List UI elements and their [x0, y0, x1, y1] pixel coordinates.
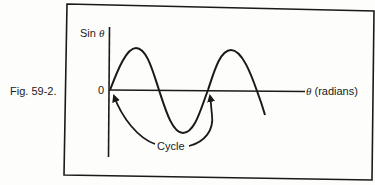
- x-axis-label: θ (radians): [306, 85, 358, 97]
- y-axis: [109, 27, 110, 157]
- sine-wave-diagram: Sin θ 0 θ (radians) Cycle: [0, 0, 375, 185]
- origin-label: 0: [98, 84, 104, 96]
- cycle-annotation: Cycle: [157, 140, 185, 152]
- cycle-arrow-left: [114, 96, 155, 144]
- cycle-arrow-right: [189, 96, 212, 146]
- y-axis-label: Sin θ: [80, 27, 105, 39]
